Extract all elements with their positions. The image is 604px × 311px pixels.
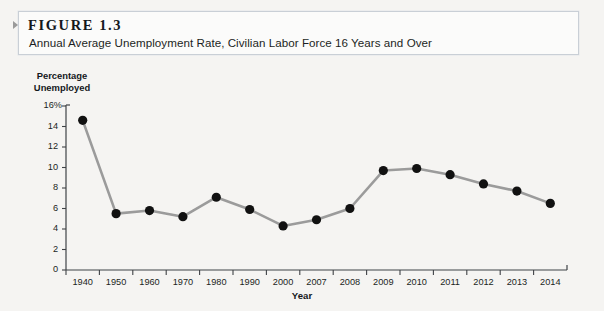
chart-plot-area: 0246810121416%19401950196019701980199020… [0, 0, 604, 311]
data-point-marker [379, 166, 388, 175]
data-point-marker [345, 204, 354, 213]
x-axis-title: Year [0, 290, 604, 301]
y-tick-label: 12 [32, 141, 58, 151]
x-tick-label: 2014 [530, 277, 570, 287]
y-tick-label: 10 [32, 162, 58, 172]
data-point-marker [245, 205, 254, 214]
y-tick-label: 6 [32, 203, 58, 213]
y-tick-label: 2 [32, 244, 58, 254]
data-point-marker [479, 179, 488, 188]
y-tick-label: 14 [32, 121, 58, 131]
y-tick-label: 8 [32, 182, 58, 192]
data-point-marker [178, 212, 187, 221]
data-point-marker [78, 116, 87, 125]
y-tick-label: 0 [32, 264, 58, 274]
data-point-marker [112, 209, 121, 218]
y-tick-label: 16% [32, 100, 62, 110]
figure-container: FIGURE 1.3 Annual Average Unemployment R… [0, 0, 604, 311]
y-tick-label: 4 [32, 223, 58, 233]
data-point-marker [512, 186, 521, 195]
data-point-marker [446, 170, 455, 179]
data-point-marker [145, 206, 154, 215]
data-point-marker [279, 221, 288, 230]
data-point-marker [312, 215, 321, 224]
data-point-marker [212, 193, 221, 202]
data-point-marker [412, 164, 421, 173]
data-point-marker [546, 199, 555, 208]
line-chart-svg [0, 0, 604, 311]
